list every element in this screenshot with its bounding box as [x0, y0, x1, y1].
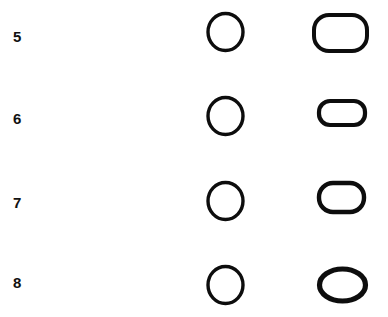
row-label-5: 5 [13, 29, 21, 44]
row-label-8: 8 [13, 275, 21, 290]
circle-outline-row-7 [205, 180, 246, 222]
circle-outline-row-8 [205, 264, 246, 306]
circle-outline-row-5 [205, 11, 246, 53]
row-label-6: 6 [13, 111, 21, 126]
figure-row-6: 6 [0, 82, 388, 166]
wide-oval-outline-row-7 [316, 180, 368, 217]
row-label-7: 7 [13, 195, 21, 210]
figure-row-5: 5 [0, 0, 388, 82]
figure-panel: 5 6 7 [0, 0, 388, 317]
rounded-rectangle-outline-row-5 [311, 12, 371, 56]
ellipse-outline-row-8 [316, 266, 369, 304]
circle-outline-row-6 [205, 95, 246, 137]
figure-row-7: 7 [0, 166, 388, 250]
flat-stadium-outline-row-6 [316, 98, 369, 130]
figure-row-8: 8 [0, 250, 388, 317]
